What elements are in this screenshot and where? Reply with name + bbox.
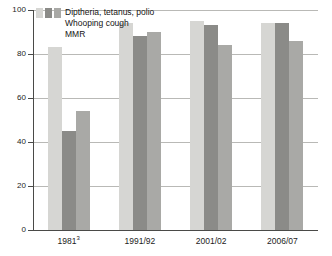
bar-2006-07-series0	[261, 23, 275, 230]
bar-2001-02-series2	[218, 45, 232, 230]
y-tick-label-40: 40	[0, 138, 26, 146]
x-axis-label-2: 2001/02	[171, 236, 251, 246]
x-axis-label-3: 2006/07	[242, 236, 322, 246]
legend-item-1: Whooping cough	[36, 18, 186, 29]
legend-swatch-icon-whooping	[45, 8, 52, 18]
legend-swatch-icon-dtp	[36, 8, 43, 18]
y-tick-mark-40	[28, 142, 33, 143]
legend-item-0: Diptheria, tetanus, polio	[36, 7, 186, 18]
y-tick-mark-80	[28, 54, 33, 55]
y-axis-line	[33, 10, 34, 231]
legend-swatch-icon-mmr	[54, 8, 61, 18]
bar-1991-92-series2	[147, 32, 161, 230]
y-tick-mark-0	[28, 230, 33, 231]
plot-area	[33, 10, 318, 230]
bar-chart: 020406080100 198131991/922001/022006/07 …	[0, 0, 332, 256]
bar-1991-92-series1	[133, 36, 147, 230]
chart-legend: Diptheria, tetanus, polio Whooping cough…	[36, 7, 186, 40]
y-tick-label-80: 80	[0, 50, 26, 58]
legend-label-mmr: MMR	[65, 29, 85, 40]
y-tick-mark-60	[28, 98, 33, 99]
bar-1981-series2	[76, 111, 90, 230]
bar-2006-07-series1	[275, 23, 289, 230]
x-axis-label-1: 1991/92	[100, 236, 180, 246]
y-tick-label-60: 60	[0, 94, 26, 102]
bar-2001-02-series1	[204, 25, 218, 230]
x-axis-label-0: 19813	[29, 236, 109, 246]
legend-item-2: MMR	[36, 29, 186, 40]
bar-2006-07-series2	[289, 41, 303, 230]
bar-2001-02-series0	[190, 21, 204, 230]
bar-1991-92-series0	[119, 23, 133, 230]
x-axis-line	[33, 230, 318, 231]
legend-label-whooping: Whooping cough	[65, 18, 129, 29]
y-tick-mark-100	[28, 10, 33, 11]
y-tick-label-100: 100	[0, 6, 26, 14]
y-tick-label-20: 20	[0, 182, 26, 190]
bar-1981-series0	[48, 47, 62, 230]
legend-label-dtp: Diptheria, tetanus, polio	[65, 7, 154, 18]
y-tick-mark-20	[28, 186, 33, 187]
y-tick-label-0: 0	[0, 226, 26, 234]
bar-1981-series1	[62, 131, 76, 230]
